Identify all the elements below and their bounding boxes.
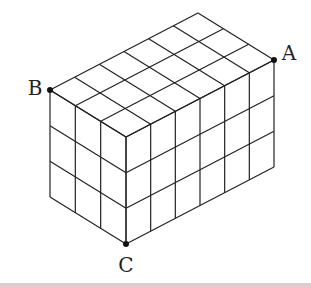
vertex-points (47, 57, 277, 247)
cuboid-diagram: A B C (0, 0, 311, 288)
label-c: C (118, 253, 133, 277)
point-c (123, 241, 129, 247)
point-b (47, 87, 53, 93)
bottom-divider-bar (0, 283, 311, 288)
cube-grid-lines (50, 13, 274, 244)
label-a: A (281, 41, 297, 65)
label-b: B (28, 76, 43, 100)
point-a (271, 57, 277, 63)
